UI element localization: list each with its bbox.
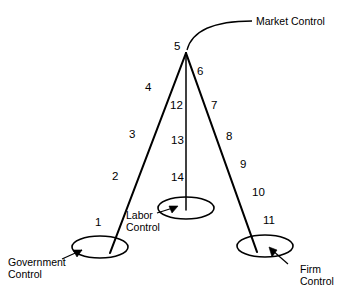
callout-government-control: Government Control [8,257,66,281]
arrowhead-labor-control [169,206,178,213]
edge-label-8: 8 [226,130,232,143]
edge-label-12: 12 [170,99,183,112]
callout-market-control: Market Control [256,16,325,28]
edge-label-9: 9 [240,158,246,171]
edge-label-2: 2 [112,170,118,183]
edge-label-11: 11 [263,214,275,227]
edge-label-4: 4 [145,81,151,94]
leader-market-control [187,21,252,50]
node-ellipse-firm [237,235,293,257]
diagram-canvas: 1 2 3 4 5 6 7 8 9 10 11 12 13 14 Market … [0,0,351,301]
edge-label-7: 7 [211,99,217,112]
callout-labor-control: Labor Control [126,210,160,234]
node-label-5: 5 [174,40,180,53]
edge-right-branch [186,53,257,252]
edge-label-14: 14 [171,171,184,184]
edge-label-3: 3 [129,128,135,141]
edge-label-6: 6 [197,65,203,78]
edge-label-1: 1 [95,216,101,229]
edge-label-13: 13 [171,134,184,147]
edge-label-10: 10 [252,186,265,199]
node-ellipse-government [72,236,128,258]
callout-firm-control: Firm Control [300,264,334,288]
